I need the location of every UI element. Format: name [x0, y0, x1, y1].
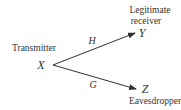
node-x-label: X	[36, 58, 45, 72]
edge-h-label: H	[87, 35, 96, 46]
transmitter-caption: Transmitter	[12, 43, 57, 53]
channel-diagram: Transmitter X Legitimate receiver Y Z Ea…	[0, 0, 181, 110]
legitimate-receiver-caption-line2: receiver	[131, 16, 162, 26]
edge-g-label: G	[89, 79, 96, 90]
node-z-label: Z	[142, 82, 149, 96]
eavesdropper-caption: Eavesdropper	[129, 96, 181, 106]
node-y-label: Y	[139, 26, 147, 40]
legitimate-receiver-caption-line1: Legitimate	[129, 5, 170, 15]
